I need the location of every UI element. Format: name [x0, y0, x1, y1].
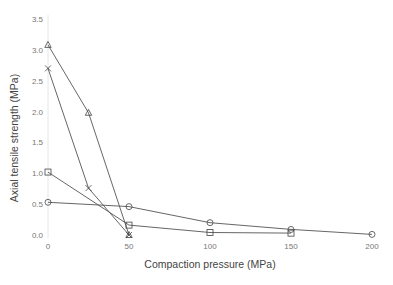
y-tick-label: 3.5	[32, 15, 44, 24]
y-tick-label: 0.0	[32, 231, 44, 240]
y-tick-label: 1.5	[32, 138, 44, 147]
square-series-line	[48, 172, 291, 233]
x-tick-labels: 050100150200	[46, 242, 379, 251]
cross-series-point-cross	[86, 185, 92, 191]
series-lines	[48, 45, 372, 235]
chart: 0.00.51.01.52.02.53.03.5 050100150200 Co…	[0, 0, 393, 285]
x-tick-label: 150	[284, 242, 298, 251]
y-tick-label: 0.5	[32, 200, 44, 209]
y-tick-label: 3.0	[32, 46, 44, 55]
x-tick-label: 50	[125, 242, 134, 251]
y-tick-label: 2.0	[32, 108, 44, 117]
triangle-series-line	[48, 45, 129, 235]
cross-series-line	[48, 68, 129, 235]
y-axis-title: Axial tensile strength (MPa)	[8, 74, 20, 202]
x-tick-label: 200	[365, 242, 379, 251]
x-tick-label: 0	[46, 242, 51, 251]
x-axis-title: Compaction pressure (MPa)	[144, 258, 275, 270]
x-tick-label: 100	[203, 242, 217, 251]
y-tick-labels: 0.00.51.01.52.02.53.03.5	[32, 15, 44, 240]
series-markers	[45, 41, 375, 238]
y-tick-label: 2.5	[32, 77, 44, 86]
y-tick-label: 1.0	[32, 169, 44, 178]
